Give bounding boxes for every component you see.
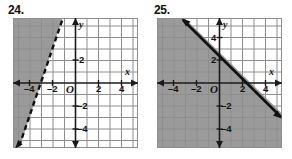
graph-25-ytick--4: –4: [221, 124, 232, 134]
graph-24-origin-label: O: [66, 84, 74, 95]
graph-25-y-axis-label: y: [223, 20, 227, 30]
graph-24-ytick--4: –4: [77, 124, 88, 134]
inequality-graph-24: –4 –2 2 4 2 –2 –4 O x y: [13, 18, 138, 148]
graph-24-x-axis-label: x: [125, 67, 130, 77]
graph-25-ytick-2: 2: [211, 55, 216, 65]
graph-25-origin-label: O: [210, 84, 218, 95]
graph-25-ytick--2: –2: [221, 101, 232, 111]
graph-25-xtick--4: –4: [168, 84, 179, 94]
graph-24-xtick-4: 4: [119, 84, 124, 94]
graph-25-xtick--2: –2: [191, 84, 202, 94]
graph-25-ytick-4: 4: [211, 33, 216, 43]
graph-25-xtick-2: 2: [240, 84, 245, 94]
graph-24-ytick--2: –2: [77, 101, 88, 111]
graph-24-xtick--2: –2: [47, 84, 58, 94]
problem-number-25: 25.: [154, 3, 170, 17]
inequality-graph-25: –4 –2 2 4 4 2 –2 –4 O x y: [157, 18, 282, 148]
graph-24-xtick-2: 2: [96, 84, 101, 94]
graph-24-y-axis-label: y: [79, 20, 83, 30]
worksheet-page: 24.: [0, 0, 292, 159]
graph-24-ytick-2: 2: [79, 55, 84, 65]
problem-25-panel: 25.: [146, 0, 292, 159]
problem-24-panel: 24.: [0, 0, 146, 159]
graph-24-xtick--4: –4: [24, 84, 35, 94]
graph-25-xtick-4: 4: [263, 84, 268, 94]
problem-number-24: 24.: [8, 3, 24, 17]
graph-25-x-axis-label: x: [269, 67, 274, 77]
